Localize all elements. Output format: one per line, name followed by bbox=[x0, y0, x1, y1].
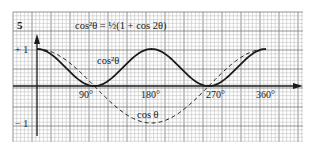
cos-curve-label: cos θ bbox=[137, 109, 159, 120]
equation-title: cos²θ = ½(1 + cos 2θ) bbox=[75, 20, 167, 32]
x-tick-180: 180° bbox=[141, 89, 160, 100]
trig-chart: 5 cos²θ = ½(1 + cos 2θ) + 1 − 1 90° 180°… bbox=[0, 0, 320, 151]
cos-squared-curve-label: cos²θ bbox=[97, 55, 119, 66]
x-tick-270: 270° bbox=[206, 89, 225, 100]
y-tick-plus-one: + 1 bbox=[15, 44, 28, 55]
figure-number: 5 bbox=[17, 19, 23, 31]
y-tick-minus-one: − 1 bbox=[15, 118, 28, 129]
x-tick-90: 90° bbox=[79, 89, 93, 100]
x-tick-360: 360° bbox=[256, 89, 275, 100]
